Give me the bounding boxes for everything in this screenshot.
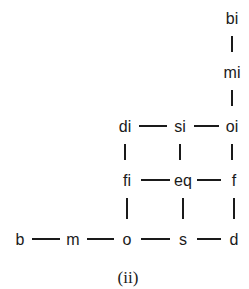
node-mi: mi: [224, 64, 241, 81]
lattice-diagram: bimidisioifieqfbmosd (ii): [0, 0, 249, 289]
node-fi: fi: [123, 172, 131, 189]
node-eq: eq: [174, 172, 192, 189]
node-si: si: [174, 118, 186, 135]
node-b: b: [16, 231, 25, 248]
node-m: m: [66, 231, 79, 248]
figure-caption: (ii): [118, 268, 139, 287]
edges-group: [32, 36, 234, 239]
node-oi: oi: [226, 118, 238, 135]
node-s: s: [179, 231, 187, 248]
node-di: di: [119, 118, 131, 135]
node-f: f: [232, 172, 237, 189]
node-bi: bi: [226, 10, 238, 27]
node-d: d: [230, 231, 239, 248]
node-o: o: [123, 231, 132, 248]
